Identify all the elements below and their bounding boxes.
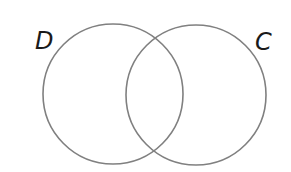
venn-diagram: D C bbox=[0, 0, 291, 172]
circle-d bbox=[43, 24, 183, 164]
set-label-c: C bbox=[255, 30, 272, 54]
set-label-d: D bbox=[35, 29, 53, 53]
circle-c bbox=[126, 25, 266, 165]
venn-circles bbox=[0, 0, 291, 172]
